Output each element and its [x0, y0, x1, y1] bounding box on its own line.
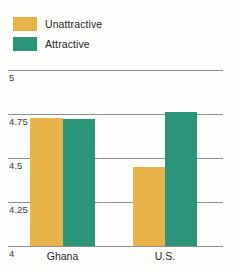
y-axis-tick-4: 4 — [9, 248, 14, 259]
bar-ghana-unattractive — [30, 118, 63, 246]
bar-chart: Unattractive Attractive 5 4.75 4.5 4.25 … — [0, 0, 235, 272]
y-axis-tick-4-5: 4.5 — [9, 160, 23, 171]
y-axis-tick-4-25: 4.25 — [9, 204, 28, 215]
bar-ghana-attractive — [63, 119, 95, 246]
gridline-5 — [8, 70, 223, 71]
y-axis-tick-4-75: 4.75 — [9, 116, 28, 127]
y-axis-tick-5: 5 — [9, 72, 14, 83]
bar-us-unattractive — [133, 167, 165, 246]
bar-us-attractive — [165, 112, 197, 246]
plot-area: 5 4.75 4.5 4.25 4 Ghana U.S. — [0, 0, 235, 272]
x-axis-tick-us: U.S. — [133, 250, 197, 262]
axis-baseline-4 — [8, 246, 223, 247]
x-axis-tick-ghana: Ghana — [30, 250, 95, 262]
